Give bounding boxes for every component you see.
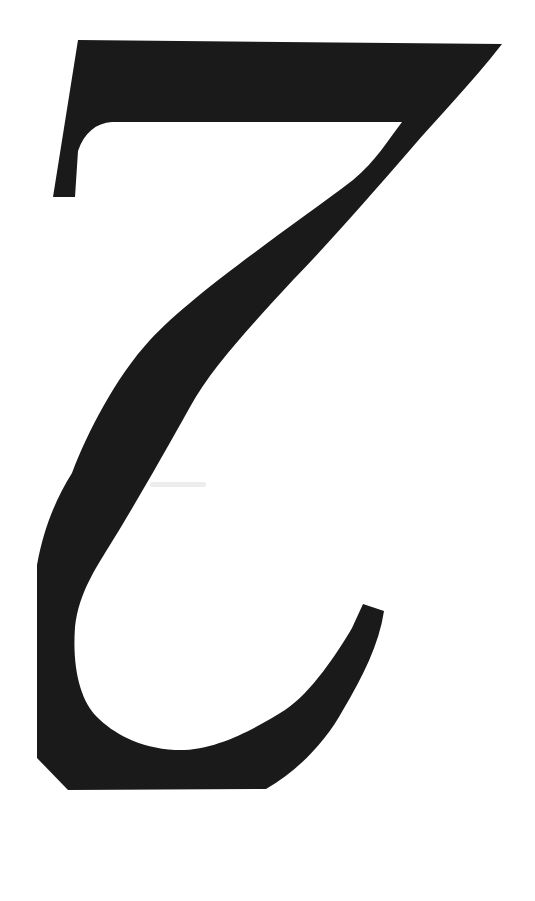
scan-smudge-artifact: [150, 482, 206, 487]
glyph-canvas: [0, 0, 535, 901]
scanned-glyph-page: 2: [0, 0, 535, 901]
